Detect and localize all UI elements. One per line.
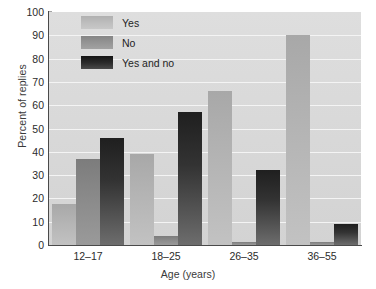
y-tick-label: 30 <box>18 169 44 181</box>
y-tick-label: 0 <box>18 239 44 251</box>
chart-legend: YesNoYes and no <box>81 16 174 69</box>
y-tick-label: 50 <box>18 123 44 135</box>
bar <box>232 242 256 245</box>
legend-label: Yes and no <box>122 57 174 69</box>
bar <box>100 138 124 245</box>
legend-label: No <box>122 37 135 49</box>
bar <box>178 112 202 245</box>
y-axis-tick-labels: 0102030405060708090100 <box>18 0 44 289</box>
gridline <box>49 105 361 106</box>
gridline <box>49 129 361 130</box>
legend-swatch-icon <box>81 16 113 29</box>
bar <box>286 35 310 245</box>
x-tick-label: 26–35 <box>229 250 258 262</box>
gridline <box>49 152 361 153</box>
legend-item: Yes <box>81 16 174 29</box>
bar <box>52 204 76 245</box>
chart-figure: Percent of replies 010203040506070809010… <box>0 0 376 289</box>
bar <box>334 224 358 245</box>
bar <box>256 170 280 245</box>
gridline <box>49 82 361 83</box>
bar <box>154 236 178 245</box>
x-tick-label: 18–25 <box>151 250 180 262</box>
y-tick-label: 70 <box>18 76 44 88</box>
bar <box>76 159 100 245</box>
x-axis-line <box>48 245 362 246</box>
legend-label: Yes <box>122 17 139 29</box>
y-tick-label: 90 <box>18 29 44 41</box>
y-tick-label: 40 <box>18 146 44 158</box>
legend-item: No <box>81 36 174 49</box>
y-tick-label: 20 <box>18 192 44 204</box>
bar <box>310 242 334 245</box>
x-tick-label: 36–55 <box>307 250 336 262</box>
x-tick-label: 12–17 <box>73 250 102 262</box>
y-tick-label: 10 <box>18 216 44 228</box>
legend-swatch-icon <box>81 56 113 69</box>
y-tick-label: 80 <box>18 53 44 65</box>
bar <box>130 154 154 245</box>
y-tick-label: 100 <box>18 6 44 18</box>
y-tick-label: 60 <box>18 99 44 111</box>
legend-swatch-icon <box>81 36 113 49</box>
bar <box>208 91 232 245</box>
legend-item: Yes and no <box>81 56 174 69</box>
x-axis-title: Age (years) <box>0 268 376 280</box>
